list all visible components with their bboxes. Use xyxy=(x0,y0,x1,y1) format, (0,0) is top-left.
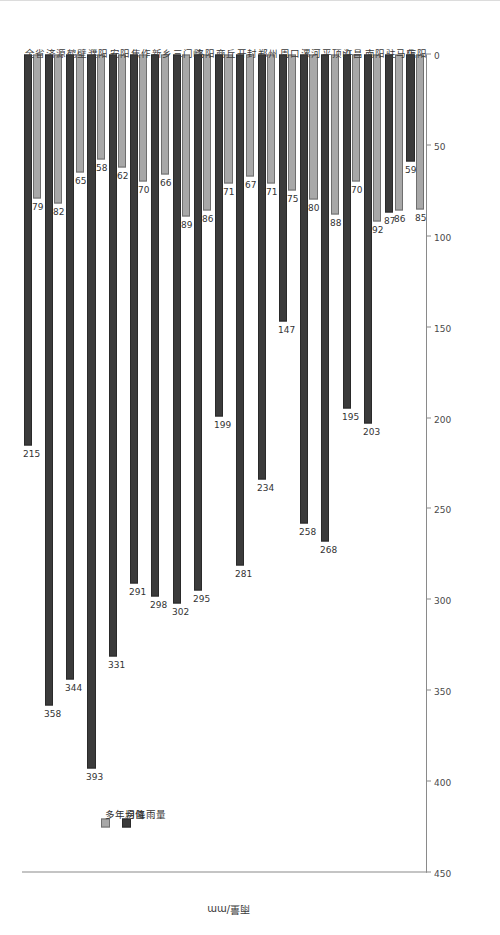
bar-monthly-rainfall xyxy=(87,54,95,768)
category-label: 全省 xyxy=(25,45,45,59)
bar-value-label: 70 xyxy=(351,184,362,194)
bar-monthly-rainfall xyxy=(215,54,223,416)
bar-value-label: 86 xyxy=(394,213,405,223)
bar-multiyear-average xyxy=(224,54,232,183)
bar-value-label: 75 xyxy=(287,193,298,203)
bar-value-label: 258 xyxy=(299,526,316,536)
axis-title-rainfall: 雨量/mm xyxy=(207,902,250,917)
category-label: 濮阳 xyxy=(88,45,108,59)
bar-value-label: 82 xyxy=(53,206,64,216)
bar-value-label: 331 xyxy=(108,659,125,669)
bar-multiyear-average xyxy=(416,54,424,209)
axis-tick-label: 100 xyxy=(434,232,451,242)
bar-multiyear-average xyxy=(161,54,169,174)
bar-value-label: 79 xyxy=(32,201,43,211)
bar-multiyear-average xyxy=(54,54,62,203)
bar-value-label: 215 xyxy=(23,448,40,458)
axis-tick xyxy=(426,871,431,872)
bar-value-label: 80 xyxy=(308,202,319,212)
bar-monthly-rainfall xyxy=(300,54,308,523)
bar-value-label: 62 xyxy=(117,170,128,180)
category-label: 许昌 xyxy=(343,45,363,59)
axis-tick-label: 150 xyxy=(434,323,451,333)
bar-monthly-rainfall xyxy=(194,54,202,590)
category-label: 南阳 xyxy=(365,45,385,59)
category-label: 开封 xyxy=(237,45,257,59)
axis-tick-label: 250 xyxy=(434,504,451,514)
bar-value-label: 66 xyxy=(160,177,171,187)
bar-value-label: 70 xyxy=(138,184,149,194)
category-label: 济源 xyxy=(46,45,66,59)
category-label: 商丘 xyxy=(216,45,236,59)
axis-tick xyxy=(426,689,431,690)
axis-tick-label: 50 xyxy=(434,141,445,151)
category-label: 新乡 xyxy=(152,45,172,59)
chart-figure: 雨量/mm 多年均值 月降雨量 450400350300250200150100… xyxy=(0,0,500,935)
bar-value-label: 199 xyxy=(214,419,231,429)
bar-value-label: 298 xyxy=(150,599,167,609)
axis-tick xyxy=(426,326,431,327)
axis-tick xyxy=(426,507,431,508)
category-label: 周口 xyxy=(280,45,300,59)
axis-tick xyxy=(426,780,431,781)
category-label: 焦作 xyxy=(131,45,151,59)
bar-monthly-rainfall xyxy=(385,54,393,212)
bar-multiyear-average xyxy=(373,54,381,221)
bar-value-label: 291 xyxy=(129,586,146,596)
bar-value-label: 268 xyxy=(320,544,337,554)
bar-value-label: 89 xyxy=(181,219,192,229)
bar-monthly-rainfall xyxy=(343,54,351,408)
bar-value-label: 58 xyxy=(96,162,107,172)
bar-value-label: 302 xyxy=(172,606,189,616)
bar-monthly-rainfall xyxy=(258,54,266,479)
bar-monthly-rainfall xyxy=(109,54,117,656)
axis-tick-label: 350 xyxy=(434,686,451,696)
bar-monthly-rainfall xyxy=(236,54,244,565)
axis-tick xyxy=(426,144,431,145)
bar-monthly-rainfall xyxy=(321,54,329,541)
bar-multiyear-average xyxy=(76,54,84,172)
bar-multiyear-average xyxy=(97,54,105,159)
bar-value-label: 92 xyxy=(372,224,383,234)
bar-value-label: 295 xyxy=(193,593,210,603)
bar-value-label: 393 xyxy=(86,771,103,781)
bar-monthly-rainfall xyxy=(130,54,138,583)
bar-multiyear-average xyxy=(352,54,360,181)
bar-multiyear-average xyxy=(309,54,317,199)
bar-monthly-rainfall xyxy=(173,54,181,603)
category-label: 漯河 xyxy=(301,45,321,59)
bar-multiyear-average xyxy=(118,54,126,167)
bar-value-label: 281 xyxy=(235,568,252,578)
bar-value-label: 234 xyxy=(257,482,274,492)
axis-tick-label: 450 xyxy=(434,868,451,878)
category-label: 安阳 xyxy=(110,45,130,59)
bar-multiyear-average xyxy=(288,54,296,190)
rotated-figure-wrapper: 雨量/mm 多年均值 月降雨量 450400350300250200150100… xyxy=(0,0,500,935)
value-axis-line xyxy=(426,54,427,872)
axis-tick xyxy=(426,417,431,418)
axis-tick xyxy=(426,598,431,599)
axis-tick xyxy=(426,235,431,236)
bar-monthly-rainfall xyxy=(406,54,414,161)
axis-tick-label: 300 xyxy=(434,595,451,605)
bar-multiyear-average xyxy=(331,54,339,214)
bar-multiyear-average xyxy=(246,54,254,176)
bar-value-label: 203 xyxy=(363,426,380,436)
bar-monthly-rainfall xyxy=(66,54,74,679)
axis-tick-label: 400 xyxy=(434,777,451,787)
bar-monthly-rainfall xyxy=(24,54,32,445)
bar-multiyear-average xyxy=(203,54,211,210)
bar-monthly-rainfall xyxy=(279,54,287,321)
category-label: 鹤壁 xyxy=(67,45,87,59)
bar-value-label: 344 xyxy=(65,682,82,692)
bar-multiyear-average xyxy=(267,54,275,183)
axis-tick-label: 0 xyxy=(434,50,440,60)
bar-multiyear-average xyxy=(33,54,41,198)
bar-value-label: 59 xyxy=(405,164,416,174)
category-label: 郑州 xyxy=(258,45,278,59)
bar-monthly-rainfall xyxy=(45,54,53,705)
bar-value-label: 85 xyxy=(415,212,426,222)
bar-value-label: 65 xyxy=(75,175,86,185)
category-label: 信阳 xyxy=(407,45,427,59)
bar-value-label: 147 xyxy=(278,324,295,334)
